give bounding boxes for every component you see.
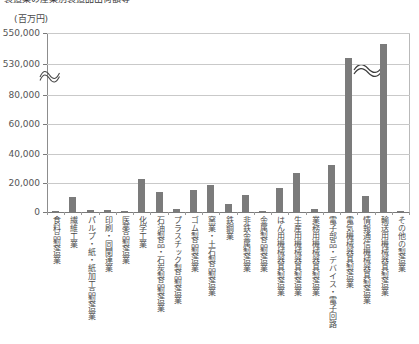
x-tick-mark — [202, 212, 203, 215]
x-tick-mark — [340, 212, 341, 215]
bar[interactable] — [138, 179, 145, 212]
gridline — [47, 95, 410, 96]
x-axis-label: 金属製品製造業 — [258, 216, 267, 272]
x-tick-mark — [306, 212, 307, 215]
x-tick-mark — [323, 212, 324, 215]
x-tick-mark — [392, 212, 393, 215]
x-axis-label: 輸送用機械器具製造業 — [379, 216, 388, 296]
x-axis-label: パルプ・紙・紙加工品製造業 — [86, 216, 95, 320]
x-axis-label: 化学工業 — [137, 216, 146, 248]
x-axis-label: その他の製造業 — [396, 216, 405, 272]
x-tick-mark — [47, 212, 48, 215]
x-axis-label: 鉄鋼業 — [224, 216, 233, 240]
gridline — [47, 33, 410, 34]
cropped-chart-title: 製造業の産業別製造品出荷額等 — [0, 0, 419, 5]
x-tick-mark — [254, 212, 255, 215]
bar[interactable] — [328, 165, 335, 212]
bar-break-icon — [353, 60, 383, 78]
x-axis-label: 情報通信機械器具製造業 — [361, 216, 370, 304]
gridline — [47, 183, 410, 184]
x-tick-mark — [357, 212, 358, 215]
y-tick-label: 80,000 — [0, 90, 40, 100]
bar[interactable] — [190, 190, 197, 212]
x-axis-label: 医薬品製造業 — [120, 216, 129, 264]
x-axis-label: 石油製品・石炭製品製造業 — [155, 216, 164, 312]
bar[interactable] — [276, 188, 283, 212]
y-tick-label: 60,000 — [0, 119, 40, 129]
x-tick-mark — [116, 212, 117, 215]
bar[interactable] — [259, 211, 266, 212]
gridline — [47, 64, 410, 65]
bar[interactable] — [173, 209, 180, 212]
x-axis-label: 繊維工業 — [68, 216, 77, 248]
x-axis-label: 非鉄金属製造業 — [241, 216, 250, 272]
x-axis-label: 業務用機械器具製造業 — [310, 216, 319, 296]
y-tick-label: 20,000 — [0, 178, 40, 188]
x-tick-mark — [99, 212, 100, 215]
bar[interactable] — [397, 211, 404, 212]
x-axis-label: 印刷・同関連業 — [103, 216, 112, 272]
bar[interactable] — [121, 211, 128, 212]
bar[interactable] — [104, 210, 111, 212]
bar[interactable] — [52, 211, 59, 212]
x-tick-mark — [237, 212, 238, 215]
x-axis-label: プラスチック製品製造業 — [172, 216, 181, 304]
x-tick-mark — [168, 212, 169, 215]
gridline — [47, 124, 410, 125]
x-axis-label: はん用機械器具製造業 — [275, 216, 284, 296]
gridline — [47, 154, 410, 155]
bar[interactable] — [311, 209, 318, 212]
y-tick-label: 40,000 — [0, 149, 40, 159]
x-tick-mark — [219, 212, 220, 215]
bar[interactable] — [242, 195, 249, 212]
y-axis-unit-label: (百万円) — [14, 12, 48, 25]
bar[interactable] — [293, 173, 300, 212]
cropped-chart-title-text: 製造業の産業別製造品出荷額等 — [4, 0, 419, 4]
x-axis-label: 生産用機械器具製造業 — [292, 216, 301, 296]
x-tick-mark — [64, 212, 65, 215]
x-axis-label: 電気機械器具製造業 — [344, 216, 353, 288]
x-tick-mark — [409, 212, 410, 215]
bar-chart: 製造業の産業別製造品出荷額等 (百万円) 550,000530,00080,00… — [0, 0, 419, 344]
x-tick-mark — [133, 212, 134, 215]
x-axis-label: 食料品製造業 — [51, 216, 60, 264]
bar[interactable] — [156, 192, 163, 212]
x-axis-label: 窯業・土石製品製造業 — [206, 216, 215, 296]
x-axis-line — [47, 212, 410, 213]
x-axis-label: ゴム製品製造業 — [189, 216, 198, 272]
bar[interactable] — [380, 44, 387, 212]
bar[interactable] — [362, 196, 369, 212]
bar[interactable] — [225, 204, 232, 212]
x-tick-mark — [288, 212, 289, 215]
y-tick-label: 550,000 — [0, 28, 40, 38]
bar[interactable] — [345, 58, 352, 212]
y-tick-label: 0 — [0, 207, 40, 217]
bar[interactable] — [207, 185, 214, 212]
axis-break-icon — [39, 66, 61, 84]
x-axis-label: 電子部品・デバイス・電子回路 — [327, 216, 336, 328]
x-tick-mark — [271, 212, 272, 215]
x-tick-mark — [81, 212, 82, 215]
bar[interactable] — [87, 210, 94, 212]
x-tick-mark — [375, 212, 376, 215]
y-tick-label: 530,000 — [0, 59, 40, 69]
bar[interactable] — [69, 197, 76, 212]
x-tick-mark — [185, 212, 186, 215]
x-tick-mark — [150, 212, 151, 215]
